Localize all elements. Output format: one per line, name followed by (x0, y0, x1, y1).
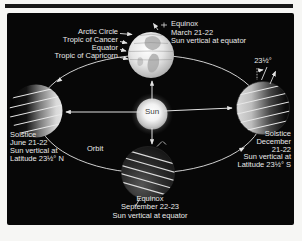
september-detail: Sun vertical at equator (80, 212, 220, 220)
top-crop-bar (5, 4, 293, 8)
tropic-of-capricorn-label: Tropic of Capricorn (55, 52, 119, 60)
june-detail-2: Latitude 23½° N (10, 155, 64, 163)
march-equinox-caption: Equinox March 21-22 Sun vertical at equa… (171, 20, 246, 46)
latitude-line-labels: Arctic Circle Tropic of Cancer Equator T… (55, 28, 119, 60)
sun-label: Sun (137, 108, 167, 116)
december-solstice-caption: Solstice December 21-22 Sun vertical at … (238, 130, 291, 169)
december-detail-2: Latitude 23½° S (238, 161, 291, 169)
june-solstice-caption: Solstice June 21-22 Sun vertical at Lati… (10, 131, 64, 163)
march-detail: Sun vertical at equator (171, 37, 246, 46)
axial-tilt-label: 23½° (246, 57, 280, 65)
orbit-label: Orbit (87, 145, 103, 153)
september-equinox-caption: Equinox September 22-23 Sun vertical at … (80, 195, 220, 220)
seasons-diagram-page: Arctic Circle Tropic of Cancer Equator T… (0, 0, 302, 241)
